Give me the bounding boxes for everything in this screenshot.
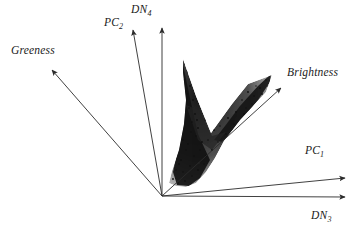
vector-diagram-canvas bbox=[0, 0, 360, 231]
axis-label-brightness-text: Brightness bbox=[287, 66, 338, 78]
axis-label-dn4-subscript: 4 bbox=[147, 9, 151, 18]
axis-label-dn4-text: DN bbox=[131, 3, 147, 15]
axis-label-pc1: PC1 bbox=[305, 144, 324, 159]
axis-label-dn3: DN3 bbox=[311, 209, 332, 224]
axis-arrow-dn3 bbox=[162, 196, 345, 197]
axis-arrow-pc2 bbox=[133, 30, 162, 196]
tasseled-cap-feature-space-figure: Greeness PC2 DN4 Brightness PC1 DN3 bbox=[0, 0, 360, 231]
axis-label-brightness: Brightness bbox=[287, 66, 338, 78]
axis-label-pc1-subscript: 1 bbox=[320, 150, 324, 159]
axis-label-pc2: PC2 bbox=[104, 16, 123, 31]
axis-arrow-greeness bbox=[52, 70, 162, 196]
axis-label-greeness-text: Greeness bbox=[11, 44, 55, 56]
axis-label-greeness: Greeness bbox=[11, 44, 55, 56]
axis-label-dn3-subscript: 3 bbox=[327, 215, 331, 224]
scatter-point-cloud bbox=[169, 57, 272, 187]
axis-label-pc2-text: PC bbox=[104, 16, 119, 28]
axis-label-dn4: DN4 bbox=[131, 3, 152, 18]
axis-label-dn3-text: DN bbox=[311, 209, 327, 221]
axis-label-pc2-subscript: 2 bbox=[119, 22, 123, 31]
axis-label-pc1-text: PC bbox=[305, 144, 320, 156]
axis-arrow-brightness bbox=[162, 88, 281, 196]
